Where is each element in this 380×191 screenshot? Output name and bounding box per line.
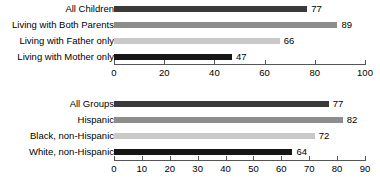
category-label: Living with Father only	[0, 35, 114, 47]
bar-track: 82	[114, 114, 365, 126]
chart-row: Hispanic82	[0, 114, 380, 126]
chart-row: Black, non-Hispanic72	[0, 130, 380, 142]
category-label: White, non-Hispanic	[0, 146, 114, 158]
bar-value-label: 66	[284, 35, 295, 47]
x-axis-tick	[214, 60, 215, 65]
bar	[114, 6, 307, 12]
chart-row: All Children77	[0, 3, 380, 15]
x-axis-tick	[198, 156, 199, 161]
chart-top-x-axis: 020406080100	[114, 60, 365, 82]
x-axis-tick	[142, 156, 143, 161]
bar-track: 77	[114, 3, 365, 15]
chart-row: All Groups77	[0, 98, 380, 110]
chart-row: Living with Father only66	[0, 35, 380, 47]
x-axis-tick	[170, 156, 171, 161]
x-axis-tick	[114, 156, 115, 161]
chart-row: Living with Both Parents89	[0, 19, 380, 31]
x-axis-tick	[309, 156, 310, 161]
category-label: Hispanic	[0, 114, 114, 126]
bar	[114, 149, 292, 155]
bar	[114, 133, 315, 139]
x-axis-tick	[265, 60, 266, 65]
chart-bottom-x-axis: 0102030405060708090	[114, 156, 365, 178]
bar-value-label: 77	[333, 98, 344, 110]
x-axis-tick-label: 40	[194, 67, 234, 78]
x-axis-line	[114, 160, 365, 161]
x-axis-tick-label: 80	[295, 67, 335, 78]
category-label: Living with Mother only	[0, 51, 114, 63]
bar	[114, 22, 337, 28]
category-label: Black, non-Hispanic	[0, 130, 114, 142]
bar-value-label: 72	[319, 130, 330, 142]
x-axis-tick	[281, 156, 282, 161]
x-axis-tick	[164, 60, 165, 65]
bar-value-label: 82	[347, 114, 358, 126]
category-label: All Children	[0, 3, 114, 15]
x-axis-tick	[114, 60, 115, 65]
bar-chart-children-living-arrangement: All Children77Living with Both Parents89…	[0, 0, 380, 95]
bar-track: 77	[114, 98, 365, 110]
x-axis-tick	[337, 156, 338, 161]
bar	[114, 101, 329, 107]
bar-track: 72	[114, 130, 365, 142]
x-axis-tick	[226, 156, 227, 161]
x-axis-tick	[253, 156, 254, 161]
x-axis-tick-label: 0	[94, 67, 134, 78]
bar-track: 66	[114, 35, 365, 47]
x-axis-tick-label: 100	[345, 67, 380, 78]
x-axis-tick-label: 20	[144, 67, 184, 78]
x-axis-tick-label: 60	[245, 67, 285, 78]
x-axis-tick	[365, 60, 366, 65]
x-axis-tick	[365, 156, 366, 161]
category-label: Living with Both Parents	[0, 19, 114, 31]
bar-track: 89	[114, 19, 365, 31]
bar-value-label: 89	[341, 19, 352, 31]
x-axis-line	[114, 64, 365, 65]
category-label: All Groups	[0, 98, 114, 110]
x-axis-tick	[315, 60, 316, 65]
bar	[114, 117, 343, 123]
x-axis-tick-label: 90	[345, 163, 380, 174]
bar-value-label: 77	[311, 3, 322, 15]
bar	[114, 38, 280, 44]
bar-chart-race-ethnicity: All Groups77Hispanic82Black, non-Hispani…	[0, 95, 380, 191]
